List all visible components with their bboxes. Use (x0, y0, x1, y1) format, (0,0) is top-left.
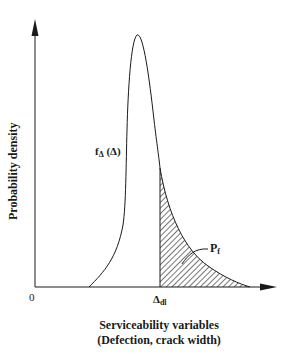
x-axis-label-line2: (Defection, crack width) (22, 333, 296, 348)
curve-label: fΔ (Δ) (95, 145, 121, 159)
y-axis-arrow-icon (32, 19, 39, 36)
threshold-label: Δdl (153, 293, 167, 307)
failure-prob-sub: f (217, 247, 220, 256)
threshold-label-main: Δ (153, 293, 160, 305)
x-axis-arrow-icon (260, 284, 277, 291)
origin-label: 0 (29, 291, 35, 303)
x-axis-label: Serviceability variables (Defection, cra… (0, 318, 296, 348)
curve-label-arg: (Δ) (104, 145, 121, 157)
failure-probability-label: Pf (210, 241, 220, 256)
y-axis-label: Probability density (6, 123, 21, 220)
probability-density-diagram (0, 0, 296, 355)
failure-region-hatched (160, 168, 250, 287)
threshold-label-sub: dl (160, 298, 167, 307)
x-axis-label-line1: Serviceability variables (22, 318, 296, 333)
